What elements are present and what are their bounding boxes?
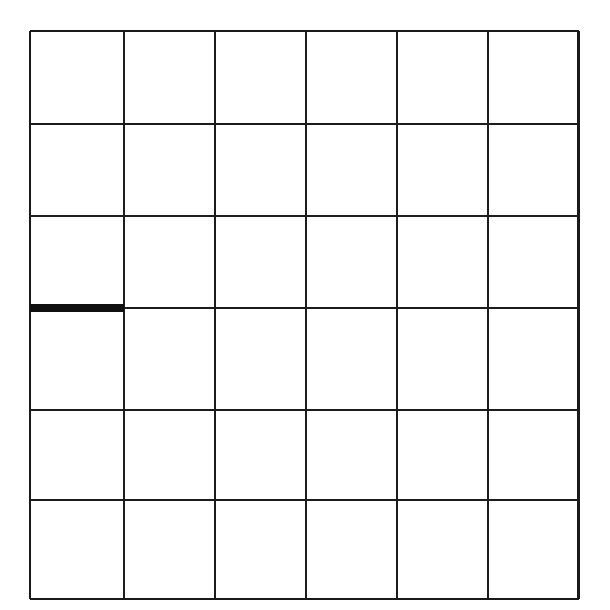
grid-cell-layer bbox=[30, 31, 579, 599]
grid-diagram bbox=[0, 0, 610, 610]
grid-cell-r6-c5 bbox=[397, 500, 488, 599]
diagram-canvas bbox=[0, 0, 610, 610]
grid-cell-r6-c1 bbox=[30, 500, 124, 599]
grid-cell-r4-c4 bbox=[306, 308, 397, 410]
grid-cell-r1-c6 bbox=[488, 31, 579, 124]
grid-cell-r4-c2 bbox=[124, 308, 215, 410]
grid-cell-r2-c4 bbox=[306, 124, 397, 216]
grid-cell-r5-c3 bbox=[215, 410, 306, 500]
grid-cell-r1-c2 bbox=[124, 31, 215, 124]
grid-cell-r2-c5 bbox=[397, 124, 488, 216]
grid-cell-r5-c6 bbox=[488, 410, 579, 500]
grid-cell-r2-c6 bbox=[488, 124, 579, 216]
grid-cell-r4-c5 bbox=[397, 308, 488, 410]
grid-cell-r5-c5 bbox=[397, 410, 488, 500]
grid-cell-r3-c2 bbox=[124, 216, 215, 308]
grid-cell-r3-c4 bbox=[306, 216, 397, 308]
grid-cell-r2-c1 bbox=[30, 124, 124, 216]
grid-cell-r3-c1 bbox=[30, 216, 124, 308]
grid-cell-r6-c2 bbox=[124, 500, 215, 599]
grid-cell-r2-c2 bbox=[124, 124, 215, 216]
grid-cell-r5-c4 bbox=[306, 410, 397, 500]
grid-cell-r4-c1 bbox=[30, 308, 124, 410]
grid-cell-r6-c4 bbox=[306, 500, 397, 599]
grid-cell-r5-c2 bbox=[124, 410, 215, 500]
grid-cell-r1-c5 bbox=[397, 31, 488, 124]
grid-cell-r1-c3 bbox=[215, 31, 306, 124]
grid-cell-r2-c3 bbox=[215, 124, 306, 216]
grid-cell-r3-c5 bbox=[397, 216, 488, 308]
grid-cell-r4-c3 bbox=[215, 308, 306, 410]
grid-cell-r3-c6 bbox=[488, 216, 579, 308]
grid-cell-r5-c1 bbox=[30, 410, 124, 500]
grid-cell-r1-c1 bbox=[30, 31, 124, 124]
grid-cell-r1-c4 bbox=[306, 31, 397, 124]
grid-cell-r6-c3 bbox=[215, 500, 306, 599]
grid-cell-r6-c6 bbox=[488, 500, 579, 599]
grid-cell-r4-c6 bbox=[488, 308, 579, 410]
grid-cell-r3-c3 bbox=[215, 216, 306, 308]
